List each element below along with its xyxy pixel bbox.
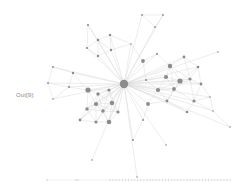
graph-node xyxy=(217,51,219,53)
isolated-node xyxy=(230,180,231,181)
graph-edge xyxy=(80,104,96,120)
graph-edge xyxy=(73,73,124,84)
isolated-node xyxy=(153,180,154,181)
graph-edge xyxy=(124,15,142,84)
graph-node xyxy=(192,99,195,102)
graph-edge xyxy=(190,79,194,101)
graph-node xyxy=(97,39,100,42)
graph-edge xyxy=(142,15,155,27)
isolated-node xyxy=(134,180,135,181)
isolated-node xyxy=(205,180,206,181)
isolated-node xyxy=(168,180,169,181)
isolated-node xyxy=(122,180,123,181)
isolated-node xyxy=(193,180,194,181)
graph-edge xyxy=(213,111,230,127)
isolated-node xyxy=(119,180,120,181)
graph-node xyxy=(136,176,138,178)
graph-edge xyxy=(124,84,137,177)
isolated-node xyxy=(223,180,224,181)
graph-node xyxy=(183,56,186,59)
graph-node xyxy=(79,119,82,122)
isolated-node xyxy=(110,180,111,181)
isolated-node xyxy=(211,180,212,181)
graph-edge xyxy=(190,67,198,79)
graph-node xyxy=(186,111,189,114)
graph-node xyxy=(94,102,98,106)
isolated-node xyxy=(220,180,221,181)
isolated-node xyxy=(202,180,203,181)
graph-edge xyxy=(98,35,110,40)
isolated-node xyxy=(46,179,47,180)
isolated-node xyxy=(186,180,187,181)
graph-node xyxy=(209,96,211,98)
graph-hub-node xyxy=(120,80,128,88)
graph-edge xyxy=(148,101,167,104)
isolated-node xyxy=(199,180,200,181)
isolated-node xyxy=(226,180,227,181)
graph-node xyxy=(72,72,74,74)
isolated-node xyxy=(77,179,78,180)
isolated-node xyxy=(125,180,126,181)
graph-node xyxy=(85,87,90,92)
graph-node xyxy=(96,92,99,95)
graph-edge xyxy=(88,25,98,40)
graph-node xyxy=(68,86,70,88)
graph-edge xyxy=(98,40,124,84)
graph-edge xyxy=(157,54,170,66)
graph-edge xyxy=(87,25,88,48)
graph-edge xyxy=(194,97,210,101)
isolated-node xyxy=(174,180,175,181)
graph-edge xyxy=(53,67,124,84)
graph-node xyxy=(52,98,54,100)
isolated-node xyxy=(146,180,147,181)
isolated-node xyxy=(196,180,197,181)
graph-node xyxy=(164,75,168,79)
graph-node xyxy=(197,66,200,69)
graph-node xyxy=(101,109,104,112)
graph-node xyxy=(188,77,191,80)
graph-edge xyxy=(48,83,124,84)
graph-edge xyxy=(146,77,166,80)
graph-node xyxy=(141,59,145,63)
graph-edge xyxy=(194,84,201,101)
graph-edge xyxy=(69,87,88,90)
graph-edge xyxy=(80,109,87,120)
graph-node xyxy=(132,139,134,141)
graph-edge xyxy=(110,35,131,44)
graph-node xyxy=(200,83,203,86)
isolated-node xyxy=(183,180,184,181)
graph-edge xyxy=(111,50,124,84)
graph-node xyxy=(145,79,147,81)
isolated-node xyxy=(128,180,129,181)
isolated-node xyxy=(208,180,209,181)
graph-node xyxy=(165,144,167,146)
graph-edge xyxy=(210,97,213,111)
graph-edge xyxy=(53,67,73,73)
graph-node xyxy=(107,120,112,125)
graph-node xyxy=(130,43,132,45)
graph-edge xyxy=(48,83,53,99)
isolated-node xyxy=(217,180,218,181)
isolated-node xyxy=(214,180,215,181)
graph-node xyxy=(107,88,110,91)
graph-edge xyxy=(124,52,218,84)
isolated-node xyxy=(159,180,160,181)
graph-node xyxy=(168,64,172,68)
graph-edge xyxy=(198,67,201,84)
network-graph xyxy=(0,0,245,187)
graph-edge xyxy=(80,120,96,122)
graph-edge xyxy=(87,90,88,109)
graph-edge xyxy=(124,84,210,97)
graph-node xyxy=(229,126,231,128)
isolated-node xyxy=(75,179,76,180)
graph-node xyxy=(87,24,89,26)
isolated-nodes-row xyxy=(46,179,231,180)
graph-node xyxy=(52,66,54,68)
graph-edge xyxy=(124,84,213,111)
isolated-node xyxy=(156,180,157,181)
graph-node xyxy=(141,14,143,16)
graph-edge xyxy=(155,15,163,27)
isolated-node xyxy=(190,180,191,181)
isolated-node xyxy=(177,180,178,181)
graph-edge xyxy=(87,48,98,56)
